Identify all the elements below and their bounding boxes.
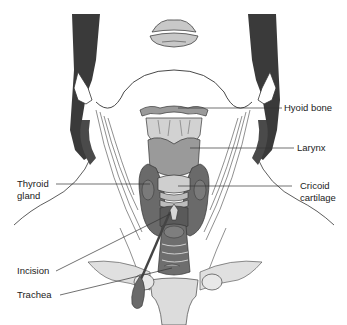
label-hyoid-bone: Hyoid bone	[284, 102, 332, 114]
label-trachea: Trachea	[17, 289, 52, 301]
jaw-line	[96, 70, 252, 108]
neck-anatomy-illustration	[0, 0, 347, 325]
upper-lip	[152, 20, 196, 32]
tracheostomy-diagram: Hyoid bone Larynx Thyroid gland Cricoid …	[0, 0, 347, 325]
manubrium	[150, 278, 198, 325]
cricoid-cartilage	[158, 175, 190, 193]
label-incision: Incision	[17, 265, 49, 277]
label-larynx: Larynx	[297, 142, 326, 154]
label-cricoid-line2: cartilage	[300, 192, 336, 204]
hyoid-bone	[140, 106, 208, 116]
label-thyroid-gland-line1: Thyroid	[17, 178, 49, 190]
lower-lip	[150, 33, 198, 47]
label-thyroid-gland-line2: gland	[17, 190, 40, 202]
label-cricoid-line1: Cricoid	[300, 180, 330, 192]
